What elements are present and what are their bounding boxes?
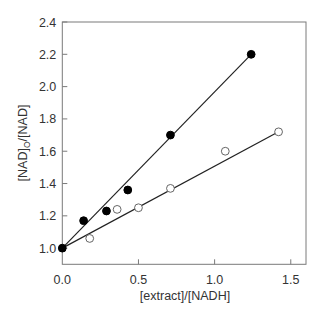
open-circle-marker: [113, 205, 121, 213]
x-axis-label: [extract]/[NADH]: [140, 289, 230, 303]
y-tick-label: 1.4: [39, 177, 56, 191]
y-tick-label: 2.0: [39, 80, 56, 94]
open-circle-marker: [86, 235, 94, 243]
data-points: [58, 50, 282, 252]
fit-lines: [62, 54, 278, 248]
x-axis-ticks: 0.00.51.01.5: [54, 259, 300, 287]
filled-circle-marker: [103, 207, 111, 215]
chart: 1.01.21.41.61.82.02.22.4 0.00.51.01.5 [e…: [0, 0, 320, 319]
y-tick-label: 1.2: [39, 209, 56, 223]
y-tick-label: 1.0: [39, 242, 56, 256]
open-circle-marker: [135, 204, 143, 212]
filled-circle-marker: [58, 244, 66, 252]
y-axis-label-post: /[NAD]: [16, 105, 30, 142]
filled-circle-marker: [167, 131, 175, 139]
filled-circle-marker: [247, 50, 255, 58]
y-tick-label: 2.2: [39, 48, 56, 62]
open-circle-marker: [221, 147, 229, 155]
y-tick-label: 1.6: [39, 145, 56, 159]
open-circle-marker: [167, 184, 175, 192]
y-tick-label: 2.4: [39, 16, 56, 30]
filled-circle-marker: [124, 186, 132, 194]
x-tick-label: 1.5: [282, 273, 299, 287]
y-axis-ticks: 1.01.21.41.61.82.02.22.4: [39, 16, 67, 256]
x-tick-label: 1.0: [206, 273, 223, 287]
open-circle-marker: [275, 128, 283, 136]
filled-circle-marker: [80, 217, 88, 225]
y-axis-label-pre: [NAD]: [16, 148, 30, 181]
y-axis-label: [NAD]O/[NAD]: [16, 105, 32, 182]
y-tick-label: 1.8: [39, 112, 56, 126]
x-tick-label: 0.5: [130, 273, 147, 287]
x-tick-label: 0.0: [54, 273, 71, 287]
